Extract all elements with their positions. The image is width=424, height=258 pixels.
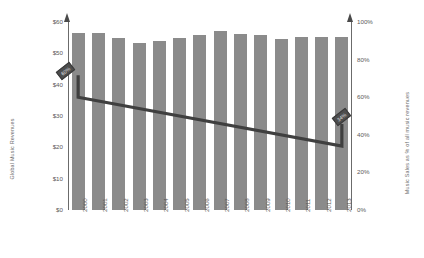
- x-axis-label: 2005: [183, 198, 190, 212]
- right-tick-label: 80%: [357, 57, 369, 63]
- x-axis-label: 2012: [325, 198, 332, 212]
- right-tick-label: 60%: [357, 94, 369, 100]
- right-axis-title: Music Sales as % of all music revenues: [404, 88, 410, 198]
- x-axis-label: 2011: [304, 199, 311, 212]
- x-axis-label: 2013: [345, 198, 352, 212]
- left-tick-label: $40: [53, 82, 63, 88]
- x-axis-labels: 2000200120022003200420052006200720082009…: [68, 212, 352, 256]
- x-axis-label: 2009: [264, 198, 271, 212]
- trend-line: [78, 75, 342, 146]
- right-tick-label: 0%: [357, 207, 366, 213]
- x-axis-label: 2007: [223, 198, 230, 212]
- left-tick-label: $20: [53, 144, 63, 150]
- x-axis-label: 2000: [81, 198, 88, 212]
- x-axis-label: 2010: [284, 198, 291, 212]
- left-axis-title: Global Music Revenues: [9, 104, 15, 194]
- right-tick-label: 100%: [357, 19, 373, 25]
- right-axis-arrow-icon: [347, 13, 353, 22]
- left-tick-label: $60: [53, 19, 63, 25]
- right-tick-label: 40%: [357, 132, 369, 138]
- left-tick-label: $30: [53, 113, 63, 119]
- x-axis-label: 2001: [101, 198, 108, 212]
- left-tick-label: $10: [53, 176, 63, 182]
- left-axis-arrow-icon: [64, 13, 70, 22]
- x-axis-label: 2002: [122, 198, 129, 212]
- x-axis-label: 2008: [243, 198, 250, 212]
- left-tick-label: $0: [56, 207, 63, 213]
- chart-container: Global Music Revenues Music Sales as % o…: [0, 0, 424, 258]
- trend-line-series: [68, 22, 352, 210]
- x-axis-label: 2006: [203, 198, 210, 212]
- plot-area: $0$10$20$30$40$50$60 0%20%40%60%80%100%: [68, 22, 352, 210]
- right-tick-label: 20%: [357, 169, 369, 175]
- left-tick-label: $50: [53, 50, 63, 56]
- x-axis-label: 2004: [162, 198, 169, 212]
- x-axis-label: 2003: [142, 198, 149, 212]
